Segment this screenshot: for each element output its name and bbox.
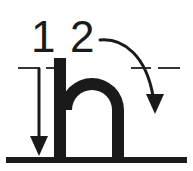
diagram-canvas: 1 2 — [0, 0, 193, 171]
letter-n-glyph — [54, 58, 124, 158]
straight-down-arrow-head — [30, 136, 48, 156]
letter-arch — [60, 78, 124, 158]
stroke-order-diagram: 1 2 — [0, 0, 193, 171]
stroke-2-arrow — [100, 40, 164, 114]
curved-down-arrow-head — [146, 94, 164, 114]
stroke-number-2: 2 — [70, 12, 94, 61]
stroke-number-1: 1 — [31, 12, 55, 61]
stroke-1-arrow — [30, 68, 48, 156]
